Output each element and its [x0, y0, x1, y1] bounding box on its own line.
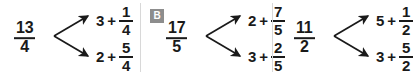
panel-divider-2 [272, 3, 273, 72]
diagram-panel-a: 13 4 3 + [0, 0, 140, 75]
fraction-numerator: 1 [400, 4, 412, 19]
branch-whole-number: 2 [96, 49, 104, 64]
fraction-branch-diagram-a: 13 4 3 + [0, 0, 140, 75]
fraction-denominator: 4 [120, 22, 132, 37]
plus-sign: + [387, 13, 396, 28]
branch-fraction: 1 2 [399, 4, 413, 38]
fraction-numerator: 13 [14, 20, 35, 36]
plus-sign: + [259, 13, 268, 28]
plus-sign: + [107, 13, 116, 28]
branch-arrows-b [204, 9, 248, 67]
branch-whole-number: 5 [376, 13, 384, 28]
branch-fraction: 1 4 [119, 4, 133, 38]
branch-arrows-icon [52, 9, 96, 63]
branch-bottom-c: 3 + 5 2 [376, 40, 413, 74]
branch-fraction: 5 4 [119, 40, 133, 74]
diagram-panel-b: B 17 5 [140, 0, 272, 75]
fraction-numerator: 5 [120, 40, 132, 55]
branch-whole-number: 2 [248, 13, 256, 28]
fraction-denominator: 4 [120, 58, 132, 73]
fraction: 13 4 [14, 20, 35, 56]
branch-arrows-icon [332, 9, 376, 63]
plus-sign: + [259, 49, 268, 64]
fraction-branch-diagram-b: 17 5 2 + [140, 0, 272, 75]
branch-arrows-icon [204, 9, 248, 63]
branch-top-a: 3 + 1 4 [96, 4, 133, 38]
fraction-numerator: 17 [166, 20, 187, 36]
fraction-numerator: 11 [294, 20, 315, 36]
branch-whole-number: 3 [376, 49, 384, 64]
fraction-denominator: 2 [400, 58, 412, 73]
fraction-branch-diagram-c: 11 2 5 + [272, 0, 396, 75]
fraction-denominator: 5 [170, 39, 183, 55]
branch-arrows-c [332, 9, 376, 67]
plus-sign: + [387, 49, 396, 64]
diagram-panel-c: 11 2 5 + [272, 0, 396, 75]
source-fraction-c: 11 2 [294, 20, 315, 56]
fraction-numerator: 5 [400, 40, 412, 55]
branch-whole-number: 3 [96, 13, 104, 28]
branch-whole-number: 3 [248, 49, 256, 64]
branch-fraction: 5 2 [399, 40, 413, 74]
plus-sign: + [107, 49, 116, 64]
fraction-denominator: 2 [298, 39, 311, 55]
fraction-numerator: 1 [120, 4, 132, 19]
source-fraction-a: 13 4 [14, 20, 35, 56]
fraction: 17 5 [166, 20, 187, 56]
fraction-denominator: 2 [400, 22, 412, 37]
branch-arrows-a [52, 9, 96, 67]
panel-divider-1 [140, 3, 141, 72]
fraction-denominator: 4 [18, 39, 31, 55]
branch-bottom-a: 2 + 5 4 [96, 40, 133, 74]
fraction: 11 2 [294, 20, 315, 56]
branch-top-c: 5 + 1 2 [376, 4, 413, 38]
source-fraction-b: 17 5 [166, 20, 187, 56]
